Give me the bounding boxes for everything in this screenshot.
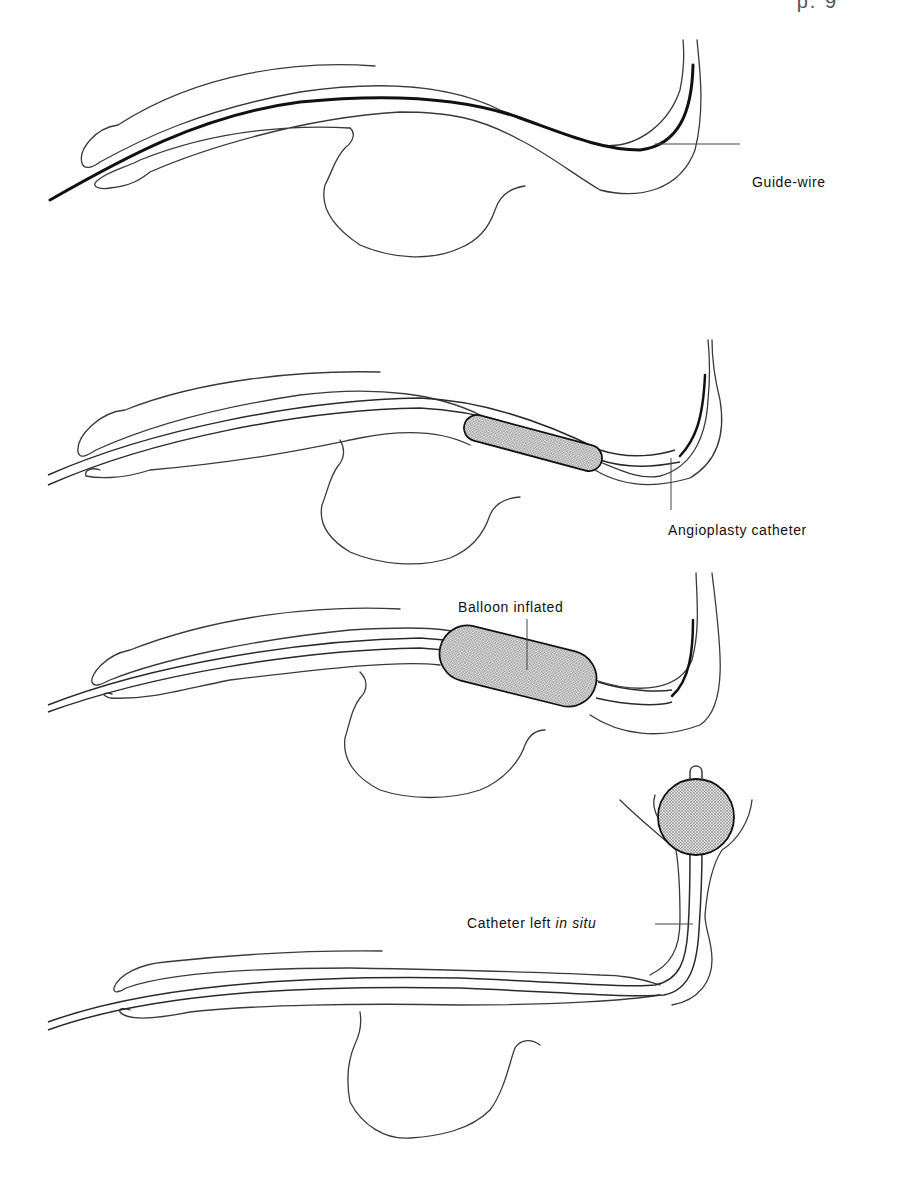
guide-wire-tip — [680, 375, 705, 456]
panel-2: Angioplasty catheter — [48, 340, 807, 564]
prostate-outline — [321, 440, 520, 564]
catheter-in-situ-label: Catheter left in situ — [467, 915, 596, 931]
catheter-tip — [690, 766, 702, 780]
urethra-outer-right — [600, 340, 710, 477]
prostate-outline — [324, 128, 525, 257]
urethral-angioplasty-diagram: Guide-wire Angioplasty catheter Balloon … — [0, 0, 898, 1178]
retained-balloon — [658, 779, 734, 855]
balloon-inflated-label: Balloon inflated — [458, 599, 563, 615]
panel-3: Balloon inflated — [48, 573, 720, 798]
guide-wire-label: Guide-wire — [752, 174, 826, 190]
prostate-outline — [348, 1012, 540, 1138]
urethral-lumen-outline — [95, 40, 701, 194]
angioplasty-catheter-label: Angioplasty catheter — [668, 522, 807, 538]
catheter-upper-wall — [48, 850, 690, 1022]
catheter-lower-wall — [48, 850, 702, 1030]
panel-1: Guide-wire — [50, 40, 826, 257]
guide-wire-tip — [672, 620, 693, 696]
inflated-balloon — [434, 619, 603, 712]
panel-4: Catheter left in situ — [48, 766, 752, 1138]
